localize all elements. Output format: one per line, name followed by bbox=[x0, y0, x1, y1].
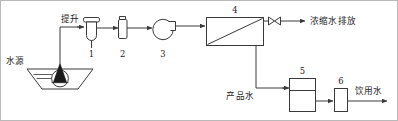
component-number-4: 4 bbox=[232, 5, 237, 15]
flow-source-to-unit1 bbox=[60, 27, 83, 64]
component-number-2: 2 bbox=[120, 49, 125, 59]
submersible-pump-icon bbox=[52, 64, 69, 87]
bowtie-valve-icon[interactable] bbox=[269, 17, 281, 25]
drinking-water-label: 饮用水 bbox=[355, 85, 383, 96]
cartridge-filter-icon bbox=[119, 17, 128, 39]
component-number-1: 1 bbox=[89, 49, 94, 59]
disinfection-unit-icon bbox=[335, 89, 348, 112]
product-water-label: 产品水 bbox=[226, 90, 254, 101]
process-flow-diagram: 水源 提升 1 2 3 bbox=[0, 0, 398, 121]
component-number-5: 5 bbox=[300, 66, 305, 76]
lift-label: 提升 bbox=[61, 14, 79, 24]
pump-icon bbox=[153, 19, 176, 39]
concentrate-discharge-label: 浓缩水排放 bbox=[310, 15, 356, 26]
component-number-6: 6 bbox=[338, 76, 343, 86]
vertical-tank-icon bbox=[84, 18, 100, 49]
flow-unit4-to-unit5 bbox=[256, 46, 288, 89]
component-number-3: 3 bbox=[160, 49, 165, 59]
water-source-label: 水源 bbox=[6, 55, 24, 66]
storage-tank-icon bbox=[290, 79, 316, 112]
membrane-module-icon bbox=[207, 18, 264, 46]
